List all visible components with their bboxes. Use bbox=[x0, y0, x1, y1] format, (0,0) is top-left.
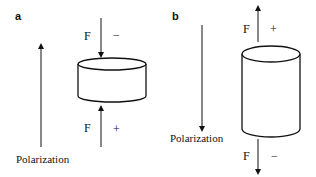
charge-sign-b-top: + bbox=[270, 22, 277, 36]
charge-sign-a-top: − bbox=[113, 28, 120, 42]
force-label-b-top: F bbox=[243, 22, 250, 36]
diagram-svg: a Polarization F − F + b Polarization F … bbox=[0, 0, 316, 177]
charge-sign-b-bottom: − bbox=[271, 149, 278, 163]
polarization-label-b: Polarization bbox=[170, 132, 224, 144]
force-label-a-top: F bbox=[84, 29, 91, 43]
panel-a: a Polarization F − F + bbox=[15, 10, 146, 165]
force-label-b-bottom: F bbox=[243, 149, 250, 163]
polarization-label-a: Polarization bbox=[16, 153, 70, 165]
force-label-a-bottom: F bbox=[84, 121, 91, 135]
panel-label-a: a bbox=[15, 10, 22, 22]
cylinder-a bbox=[78, 58, 146, 102]
cylinder-b bbox=[242, 46, 300, 137]
panel-label-b: b bbox=[172, 10, 179, 22]
panel-b: b Polarization F + F − bbox=[170, 8, 300, 172]
piezoelectric-diagram: a Polarization F − F + b Polarization F … bbox=[0, 0, 316, 177]
charge-sign-a-bottom: + bbox=[113, 122, 120, 136]
